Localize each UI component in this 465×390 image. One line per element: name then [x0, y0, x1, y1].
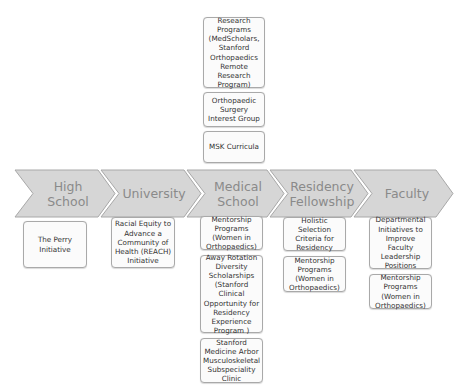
- box-holistic-selection: Holistic Selection Criteria for Residenc…: [283, 217, 346, 251]
- stage-label-medical-school: Medical School: [205, 170, 271, 217]
- box-msk-curricula: MSK Curricula: [203, 131, 265, 163]
- box-residency-mentorship: Mentorship Programs (Women in Orthopaedi…: [283, 256, 346, 292]
- stage-label-faculty: Faculty: [372, 170, 442, 217]
- box-ortho-interest-group: Orthopaedic Surgery Interest Group: [203, 92, 265, 127]
- box-research-programs: Research Programs (MedScholars, Stanford…: [203, 17, 265, 88]
- box-away-rotation: Away Rotation Diversity Scholarships (St…: [200, 255, 263, 333]
- box-arbor-clinic: Stanford Medicine Arbor Musculoskeletal …: [200, 338, 263, 383]
- stage-label-university: University: [119, 170, 189, 217]
- box-reach-initiative: Racial Equity to Advance a Community of …: [111, 217, 175, 268]
- stage-label-high-school: High School: [33, 170, 103, 217]
- box-faculty-mentorship: Mentorship Programs (Women in Orthopaedi…: [369, 274, 432, 309]
- box-med-mentorship: Mentorship Programs (Women in Orthopaedi…: [200, 216, 263, 250]
- box-departmental-initiatives: Departmental Initiatives to Improve Facu…: [369, 217, 432, 269]
- box-perry-initiative: The Perry Initiative: [23, 221, 87, 268]
- stage-label-residency-fellowship: Residency Fellowship: [286, 170, 358, 217]
